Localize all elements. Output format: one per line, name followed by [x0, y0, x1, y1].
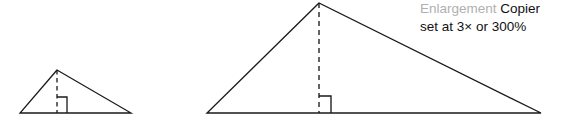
enlargement-label: Enlargement: [420, 1, 497, 16]
copier-setting-label: set at 3× or 300%: [420, 18, 566, 36]
enlarged-triangle-right-angle-icon: [319, 96, 331, 113]
original-triangle-outline: [20, 70, 131, 113]
copier-annotation-line-1: Enlargement Copier: [420, 0, 566, 18]
original-triangle-right-angle-icon: [57, 97, 67, 113]
original-triangle-group: [20, 70, 131, 113]
enlargement-copier-figure: Enlargement Copier set at 3× or 300%: [0, 0, 566, 120]
copier-annotation: Enlargement Copier set at 3× or 300%: [420, 0, 566, 36]
copier-label: Copier: [500, 1, 540, 16]
